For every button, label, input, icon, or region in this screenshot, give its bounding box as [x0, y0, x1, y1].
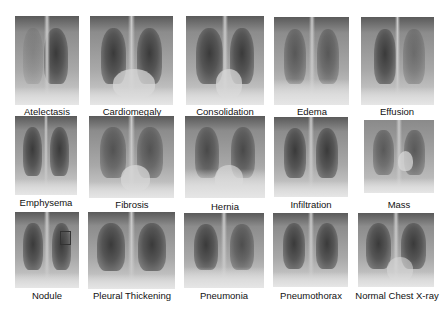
xray-image-pneumothorax [273, 213, 348, 287]
xray-image-nodule [15, 212, 79, 288]
xray-image-fibrosis [89, 116, 174, 198]
label-mass: Mass [359, 199, 439, 210]
xray-image-hernia [185, 116, 265, 198]
label-hernia: Hernia [185, 201, 265, 212]
label-effusion: Effusion [357, 106, 437, 117]
label-nodule: Nodule [7, 290, 87, 301]
xray-image-mass [364, 120, 434, 193]
xray-image-consolidation [186, 16, 264, 105]
label-edema: Edema [272, 106, 352, 117]
xray-image-infiltration [274, 117, 348, 197]
label-emphysema: Emphysema [4, 197, 88, 208]
xray-image-pneumonia [184, 213, 264, 288]
label-pneumonia: Pneumonia [182, 290, 266, 301]
label-pleural-thickening: Pleural Thickening [84, 290, 180, 301]
label-pneumothorax: Pneumothorax [268, 290, 354, 301]
xray-image-emphysema [15, 116, 77, 195]
xray-image-pleural-thickening [88, 212, 175, 289]
label-normal-chest-xray: Normal Chest X-ray [352, 290, 442, 301]
label-infiltration: Infiltration [271, 199, 351, 210]
xray-image-edema [274, 17, 349, 105]
xray-image-cardiomegaly [90, 16, 173, 105]
xray-image-effusion [361, 17, 434, 105]
label-fibrosis: Fibrosis [88, 199, 176, 210]
xray-image-normal-chest [358, 213, 434, 287]
xray-image-atelectasis [15, 16, 79, 105]
nodule-marker-box [60, 231, 71, 245]
